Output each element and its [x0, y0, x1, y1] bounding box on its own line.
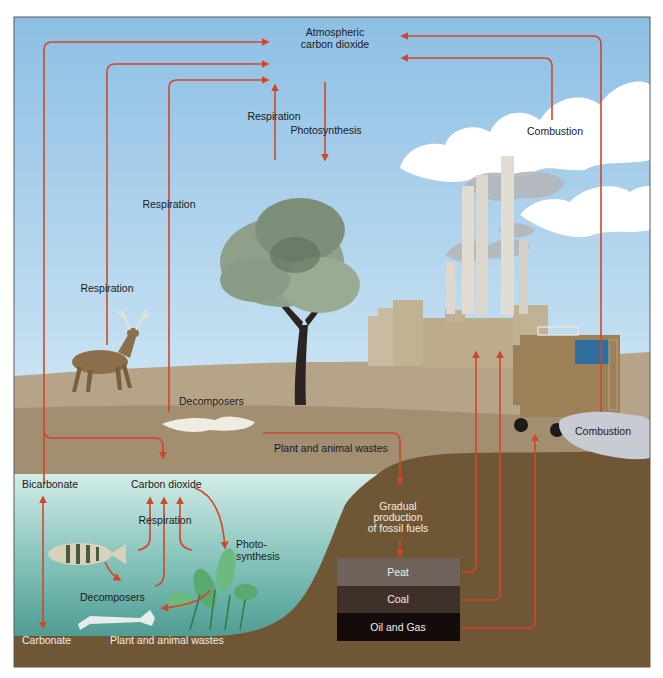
coal-label: Coal	[387, 593, 409, 605]
water-decomposers-label: Decomposers	[80, 591, 145, 603]
vehicle-combustion-label: Combustion	[575, 425, 631, 437]
oil-gas-label: Oil and Gas	[370, 621, 425, 633]
water-photosynthesis-line2: synthesis	[236, 550, 280, 562]
left-respiration-label: Respiration	[142, 198, 195, 210]
carbon-cycle-diagram: Atmospheric carbon dioxide Respiration P…	[0, 0, 663, 678]
water-photosynthesis-line1: Photo-	[236, 538, 267, 550]
deer-respiration-label: Respiration	[80, 282, 133, 294]
atmosphere-label-line1: Atmospheric	[306, 26, 364, 38]
land-wastes-label: Plant and animal wastes	[274, 442, 388, 454]
bicarbonate-label: Bicarbonate	[22, 478, 78, 490]
carbonate-label: Carbonate	[22, 634, 71, 646]
tree-respiration-label: Respiration	[247, 110, 300, 122]
land-decomposers-label: Decomposers	[179, 395, 244, 407]
water-co2-label: Carbon dioxide	[131, 478, 202, 490]
photosynthesis-label: Photosynthesis	[290, 124, 361, 136]
peat-label: Peat	[387, 566, 409, 578]
factory-combustion-label: Combustion	[527, 125, 583, 137]
water-respiration-label: Respiration	[138, 514, 191, 526]
lake-wastes-label: Plant and animal wastes	[110, 634, 224, 646]
fossil-label-line3: of fossil fuels	[368, 522, 429, 534]
atmosphere-label-line2: carbon dioxide	[301, 38, 369, 50]
